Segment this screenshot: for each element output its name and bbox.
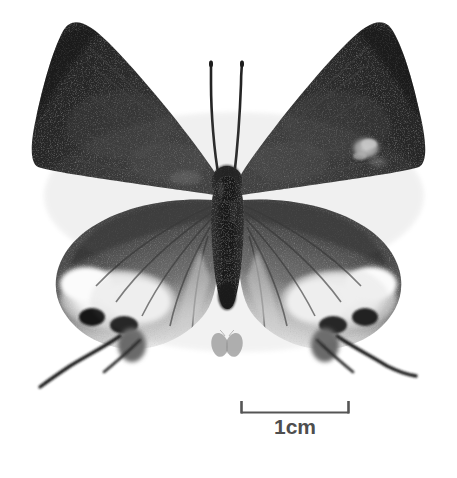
specimen-photograph (0, 0, 457, 478)
antenna-club-left (209, 61, 213, 68)
scale-bar-label: 1cm (241, 414, 349, 440)
antenna-club-right (240, 61, 244, 68)
butterfly-specimen-figure: 1cm (0, 0, 457, 478)
specimen-shadow (44, 112, 424, 352)
